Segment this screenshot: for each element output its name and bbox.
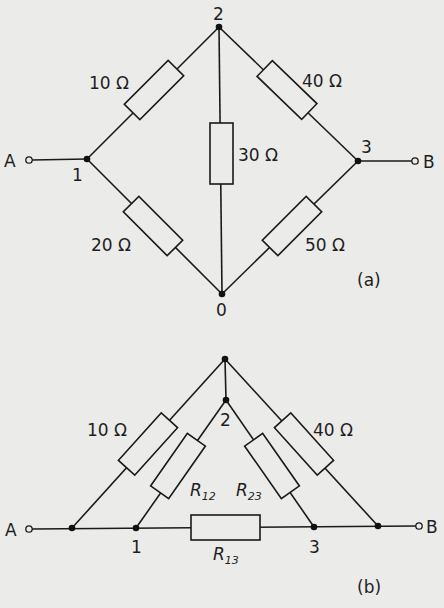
terminal-a xyxy=(26,157,32,163)
star-delta-circuit-b: A B 2 1 3 10 Ω 40 Ω R12 R23 R13 (b) xyxy=(5,356,438,597)
node-left-dot xyxy=(69,525,76,532)
circuit-diagrams: A B 2 1 3 0 10 Ω 40 Ω 30 Ω 20 Ω 50 Ω (a) xyxy=(0,0,444,608)
label-20-ohm: 20 Ω xyxy=(91,235,131,255)
label-r23: R23 xyxy=(236,480,262,503)
terminal-b-label: B xyxy=(423,152,435,172)
label-50-ohm: 50 Ω xyxy=(305,235,345,255)
label-r12: R12 xyxy=(190,480,216,503)
label-b-10-ohm: 10 Ω xyxy=(87,420,127,440)
terminal-b-label-b: B xyxy=(426,517,438,537)
node-1-dot xyxy=(84,156,91,163)
node-1-dot-b xyxy=(133,525,140,532)
node-3-dot xyxy=(355,158,362,165)
label-r13: R13 xyxy=(213,544,239,567)
bridge-circuit-a: A B 2 1 3 0 10 Ω 40 Ω 30 Ω 20 Ω 50 Ω (a) xyxy=(4,4,435,320)
resistor-30-ohm xyxy=(210,123,233,184)
wire-apex-node2 xyxy=(225,359,226,400)
resistor-20-ohm xyxy=(123,196,182,255)
node-3-label: 3 xyxy=(361,137,372,157)
resistor-r13 xyxy=(191,515,260,540)
node-apex-dot xyxy=(222,356,229,363)
node-3-dot-b xyxy=(311,524,318,531)
node-2-dot xyxy=(216,24,223,31)
node-2-dot-b xyxy=(223,397,230,404)
terminal-b xyxy=(412,158,418,164)
terminal-a-label: A xyxy=(4,151,16,171)
terminal-a-label-b: A xyxy=(5,520,17,540)
resistor-10-ohm xyxy=(124,60,183,119)
node-1-label: 1 xyxy=(72,165,83,185)
node-1-label-b: 1 xyxy=(131,537,142,557)
caption-a: (a) xyxy=(357,270,381,290)
node-3-label-b: 3 xyxy=(309,537,320,557)
wire-a-to-node1 xyxy=(32,159,87,160)
label-40-ohm: 40 Ω xyxy=(302,71,342,91)
node-0-label: 0 xyxy=(216,300,227,320)
terminal-b-b xyxy=(416,523,422,529)
node-2-label-b: 2 xyxy=(220,410,231,430)
node-2-label: 2 xyxy=(213,4,224,24)
label-30-ohm: 30 Ω xyxy=(238,145,278,165)
label-b-40-ohm: 40 Ω xyxy=(313,420,353,440)
node-0-dot xyxy=(219,291,226,298)
label-10-ohm: 10 Ω xyxy=(89,73,129,93)
terminal-a-b xyxy=(26,526,32,532)
caption-b: (b) xyxy=(357,577,381,597)
node-right-dot xyxy=(375,523,382,530)
